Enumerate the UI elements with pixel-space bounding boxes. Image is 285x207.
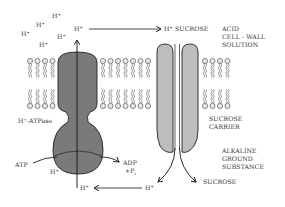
h-atpase-pump [53,40,103,188]
svg-text:SOLUTION: SOLUTION [222,41,259,48]
svg-text:SUBSTANCE: SUBSTANCE [222,163,264,170]
svg-text:CARRIER: CARRIER [209,123,240,130]
label-h-inside-pump: H+ [50,168,59,175]
lipids-left [27,58,55,108]
svg-text:H+: H+ [21,30,30,37]
svg-text:ADP: ADP [122,159,137,166]
svg-text:ALKALINE: ALKALINE [221,147,257,154]
label-atp: ATP [14,161,28,168]
label-h-atpase: H⁺-ATPase [18,117,53,124]
svg-text:H+: H+ [39,41,48,48]
lipids-right [202,58,230,108]
svg-text:H+: H+ [52,12,61,19]
label-sucrose-inside: SUCROSE [203,178,237,185]
svg-text:GROUND: GROUND [222,155,253,162]
label-adp-pi: ADP +Pi [122,159,137,176]
outside-protons: H+ H+ H+ H+ H+ H+ [21,12,83,48]
label-alkaline-ground-substance: ALKALINE GROUND SUBSTANCE [221,147,264,170]
lipids-middle [100,58,150,108]
label-acid-cell-wall-solution: ACID CELL - WALL SOLUTION [221,25,265,48]
svg-text:ACID: ACID [221,25,239,32]
svg-text:H+: H+ [57,33,66,40]
svg-text:SUCROSE: SUCROSE [209,115,243,122]
label-h-bottom: H+ [80,184,89,191]
svg-text:H+: H+ [74,25,83,32]
label-h-carrier-exit: H+ [145,184,154,191]
label-h-sucrose-outside: H+ SUCROSE [164,25,209,32]
svg-text:H+: H+ [36,21,45,28]
label-sucrose-carrier: SUCROSE CARRIER [209,115,243,130]
svg-text:CELL - WALL: CELL - WALL [222,33,265,40]
sucrose-carrier [157,44,198,182]
svg-text:+Pi: +Pi [125,167,137,176]
adp-arrow [100,157,119,162]
sucrose-transport-diagram: H+ H+ H+ H+ H+ H+ H+ SUCROSE ACID CELL -… [0,0,285,207]
